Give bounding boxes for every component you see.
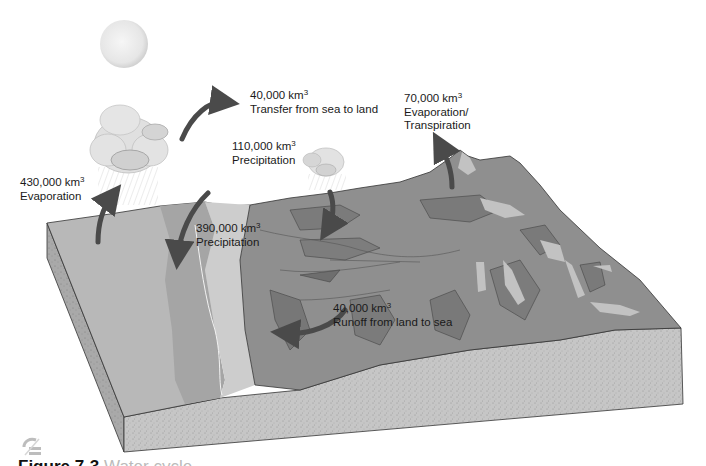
label-precipitation-land: 110,000 km3 Precipitation <box>232 140 296 167</box>
ocean-cloud-icon <box>90 105 168 205</box>
label-evapotranspiration: 70,000 km3 Evaporation/ Transpiration <box>404 92 471 133</box>
publisher-logo-icon <box>21 437 43 457</box>
water-cycle-diagram <box>0 0 706 466</box>
label-precipitation-ocean: 390,000 km3 Precipitation <box>196 222 261 249</box>
land-cloud-icon <box>303 148 346 190</box>
transfer-arrow <box>182 102 225 139</box>
sun-icon <box>100 20 148 68</box>
label-transfer-sea-to-land: 40,000 km3 Transfer from sea to land <box>250 89 378 116</box>
figure-caption: Figure 7-3 Water cycle <box>18 457 192 466</box>
label-evaporation-ocean: 430,000 km3 Evaporation <box>20 176 85 203</box>
label-runoff: 40,000 km3 Runoff from land to sea <box>333 302 452 329</box>
